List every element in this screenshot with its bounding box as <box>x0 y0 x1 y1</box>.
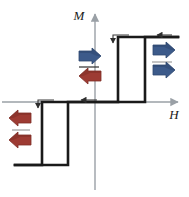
moment-arrow-group <box>9 42 175 148</box>
hysteresis-diagram: M H <box>0 0 189 197</box>
spin-arrow-left-top <box>9 110 31 126</box>
spin-arrow-right-bottom <box>153 62 175 78</box>
spin-arrow-center-up-blue <box>79 48 101 64</box>
spin-arrow-right-top <box>153 42 175 58</box>
vertical-axis-label: M <box>73 8 86 23</box>
horizontal-axis-label: H <box>168 107 179 122</box>
spin-arrow-left-bottom <box>9 132 31 148</box>
hysteresis-loop-figure: M H <box>0 0 189 197</box>
spin-arrow-center-down-red <box>79 68 101 84</box>
direction-marker-group <box>38 35 172 108</box>
